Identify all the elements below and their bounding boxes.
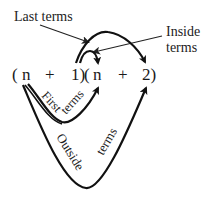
expr-term-n-1: n (22, 65, 31, 84)
expr-plus-1: + (45, 65, 55, 84)
last-terms-pointer-arrow (40, 25, 88, 42)
expr-term-n-2: n (93, 65, 102, 84)
last-terms-label: Last terms (14, 9, 73, 24)
last-terms-arc (76, 32, 145, 63)
expr-term-2: 2) (142, 65, 156, 84)
expr-open-paren-2: ( (84, 65, 90, 84)
foil-diagram: Last terms Inside terms ( n + 1) ( n + 2… (0, 0, 214, 203)
inside-terms-label-line2: terms (166, 40, 197, 55)
outside-label: Outside (53, 131, 87, 173)
inside-terms-label-line1: Inside (166, 24, 200, 39)
inside-terms-pointer-arrow (94, 36, 162, 52)
inside-terms-arc (80, 51, 98, 63)
expr-open-paren-1: ( (12, 65, 18, 84)
expr-plus-2: + (118, 65, 128, 84)
expression: ( n + 1) ( n + 2) (12, 65, 156, 84)
